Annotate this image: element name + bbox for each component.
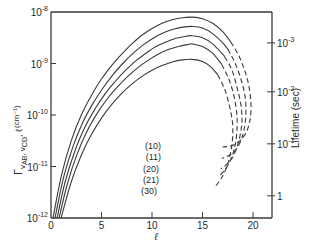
svg-text:Lifetime (sec): Lifetime (sec) (290, 88, 301, 148)
x-tick-label: 0 (48, 220, 54, 231)
x-tick-label: 5 (99, 220, 105, 231)
x-tick-label: 15 (197, 220, 209, 231)
x-tick-label: 10 (146, 220, 158, 231)
curve-label: (21) (143, 175, 159, 185)
y-tick-label: 10-8 (31, 5, 48, 18)
curve-dashed (223, 42, 251, 147)
curve-dashed (219, 65, 237, 177)
curve-dashed (216, 75, 233, 186)
y-title-sub1b: AB (21, 155, 28, 165)
y-tick-label: 10-9 (31, 57, 48, 70)
curve-label: (11) (146, 152, 161, 162)
y2-axis-title: Lifetime (sec) (290, 88, 301, 148)
svg-text:ΓvAB, vCD, ℓ(cm⁻¹): ΓvAB, vCD, ℓ(cm⁻¹) (12, 105, 28, 175)
curve-label: (20) (143, 164, 159, 174)
curve-label: (30) (141, 186, 157, 196)
y-axis-title: ΓvAB, vCD, ℓ(cm⁻¹) (12, 105, 28, 175)
curve-label: (10) (145, 141, 161, 151)
y-tick-label: 10-10 (27, 108, 48, 121)
x-axis-title: ℓ (153, 231, 158, 242)
y2-tick-label: 10-3 (277, 36, 294, 49)
chart: 05101520 10-810-910-1010-1110-12 10-310-… (0, 0, 311, 247)
y2-tick-label: 1 (277, 191, 283, 202)
y-title-tail: , ℓ (14, 128, 24, 137)
x-tick-label: 20 (247, 220, 259, 231)
curve-solid (61, 59, 218, 218)
y-title-units: (cm⁻¹) (12, 105, 21, 128)
y-tick-label: 10-11 (27, 160, 48, 173)
y-tick-label: 10-12 (27, 211, 48, 224)
y-title-sub2: CD (21, 137, 28, 147)
curve-labels: (10)(11)(20)(21)(30) (141, 141, 161, 196)
plot-frame (51, 12, 272, 218)
x-axis-ticks: 05101520 (48, 212, 259, 231)
y-title-sep: , v (18, 147, 27, 155)
